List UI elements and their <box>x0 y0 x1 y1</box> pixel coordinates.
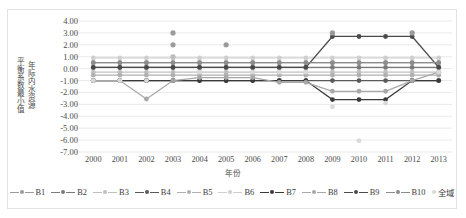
data-point <box>303 65 308 70</box>
legend-label: B6 <box>244 188 254 197</box>
data-point <box>197 75 202 80</box>
series-B9 <box>91 34 441 70</box>
data-point-extra <box>330 30 335 35</box>
x-axis-title: 年份 <box>0 167 466 178</box>
data-point <box>91 56 96 61</box>
data-point <box>171 78 176 83</box>
legend-item-B6[interactable]: B6 <box>218 188 255 197</box>
data-point <box>357 138 362 143</box>
legend-line-icon <box>302 192 311 193</box>
data-point <box>117 56 122 61</box>
data-point <box>144 60 149 65</box>
legend-label: B5 <box>203 188 213 197</box>
x-axis-tick-label: 2011 <box>378 155 394 164</box>
x-axis-tick-label: 2005 <box>218 155 234 164</box>
data-point <box>91 73 96 78</box>
data-point <box>436 65 441 70</box>
legend-line-icon <box>135 192 144 193</box>
legend-label: B2 <box>77 188 87 197</box>
legend-item-B9[interactable]: B9 <box>344 188 381 197</box>
y-axis-title-line-2: 平衡系数最小值 <box>14 57 25 113</box>
legend-line-icon <box>218 192 227 193</box>
y-axis-tick-label: 4.00 <box>63 16 78 26</box>
legend-marker-icon <box>145 190 149 194</box>
data-point <box>330 73 335 78</box>
data-point <box>91 60 96 65</box>
data-point <box>197 56 202 61</box>
series-B6 <box>91 56 441 61</box>
data-point <box>144 65 149 70</box>
x-axis-tick-label: 2010 <box>351 155 367 164</box>
data-point <box>330 97 335 102</box>
data-point <box>117 60 122 65</box>
data-point <box>410 73 415 78</box>
data-point <box>330 89 335 94</box>
legend-item-B5[interactable]: B5 <box>177 188 214 197</box>
data-point <box>277 80 282 85</box>
legend-label: B7 <box>286 188 296 197</box>
legend-label: B10 <box>412 188 426 197</box>
data-point <box>383 34 388 39</box>
data-point <box>357 34 362 39</box>
legend-item-全域[interactable]: 全域 <box>432 186 455 198</box>
data-point <box>383 56 388 61</box>
legend-item-B10[interactable]: B10 <box>386 188 427 197</box>
legend-line-icon <box>150 192 159 193</box>
legend-item-B7[interactable]: B7 <box>260 188 297 197</box>
y-axis-tick-label: -3.00 <box>60 99 78 109</box>
data-point <box>357 73 362 78</box>
y-axis-tick-label: -1.00 <box>60 76 78 86</box>
y-axis-tick-label: 1.00 <box>63 52 78 62</box>
y-axis-tick-label: -4.00 <box>60 111 78 121</box>
data-point <box>224 65 229 70</box>
data-point <box>383 101 388 106</box>
data-point <box>383 60 388 65</box>
legend-item-B1[interactable]: B1 <box>10 188 47 197</box>
data-point <box>357 60 362 65</box>
legend-item-B8[interactable]: B8 <box>302 188 339 197</box>
data-point <box>250 70 255 75</box>
data-point <box>330 60 335 65</box>
data-point <box>436 78 441 83</box>
legend-line-icon <box>192 192 201 193</box>
data-point <box>250 65 255 70</box>
data-point <box>357 89 362 94</box>
data-point-extra <box>170 54 175 59</box>
data-point <box>277 65 282 70</box>
legend-marker-icon <box>228 190 232 194</box>
legend-line-icon <box>344 192 353 193</box>
x-axis-tick-label: 2003 <box>165 155 181 164</box>
data-point <box>357 65 362 70</box>
legend-marker-icon <box>270 190 274 194</box>
data-point <box>117 73 122 78</box>
series-layer <box>91 31 441 144</box>
data-point <box>436 60 441 65</box>
legend-item-B4[interactable]: B4 <box>135 188 172 197</box>
data-point <box>330 104 335 109</box>
data-point <box>197 60 202 65</box>
series-B10 <box>91 60 441 65</box>
y-axis-title: 年际内水资源 平衡系数最小值 <box>10 12 40 157</box>
legend-marker-icon <box>20 190 24 194</box>
series-B5 <box>91 73 441 78</box>
legend-item-B3[interactable]: B3 <box>93 188 130 197</box>
data-point <box>197 70 202 75</box>
legend-line-icon <box>260 192 269 193</box>
data-point <box>330 56 335 61</box>
legend-marker-icon <box>432 190 436 194</box>
data-point <box>144 78 149 83</box>
legend-item-B2[interactable]: B2 <box>51 188 88 197</box>
legend-line-icon <box>66 192 75 193</box>
data-point <box>410 60 415 65</box>
y-axis-tick-label: 0.00 <box>63 64 78 74</box>
chart-legend: B1B2B3B4B5B6B7B8B9B10全域 <box>7 186 457 198</box>
legend-line-icon <box>386 192 395 193</box>
x-axis-tick-label: 2000 <box>85 155 101 164</box>
legend-label: B8 <box>328 188 338 197</box>
legend-line-icon <box>401 192 410 193</box>
data-point <box>383 89 388 94</box>
legend-label: 全域 <box>438 186 454 198</box>
data-point <box>224 60 229 65</box>
data-point <box>171 73 176 78</box>
legend-label: B9 <box>370 188 380 197</box>
